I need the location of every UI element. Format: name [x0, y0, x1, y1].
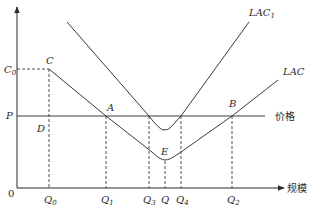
origin-label: 0 [8, 188, 14, 199]
x-tick-q2: Q2 [227, 194, 240, 207]
x-tick-q: Q [161, 194, 169, 205]
x-tick-q1: Q1 [101, 194, 114, 207]
point-e-label: E [160, 146, 169, 157]
y-tick-c0: C0 [4, 64, 17, 77]
point-b-label: B [228, 98, 236, 109]
dashed-guides [17, 69, 232, 188]
lac1-label: LAC1 [248, 7, 275, 20]
x-tick-q4: Q4 [176, 194, 189, 207]
y-tick-p: P [5, 110, 13, 121]
cost-curve-diagram: LAC1 LAC C D A B E C0 P 0 Q0 Q1 Q3 Q Q4 … [0, 0, 313, 216]
lac-label: LAC [282, 66, 305, 77]
point-d-label: D [36, 123, 45, 134]
point-c-label: C [46, 55, 54, 66]
x-tick-q0: Q0 [44, 194, 57, 207]
x-axis-label: 规模 [287, 182, 307, 194]
lac1-curve [67, 22, 249, 130]
point-a-label: A [106, 102, 114, 113]
price-line-label: 价格 [275, 110, 295, 122]
x-tick-q3: Q3 [143, 194, 156, 207]
